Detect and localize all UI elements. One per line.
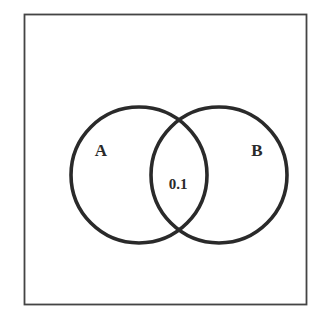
set-a-label: A: [95, 141, 108, 160]
set-a-circle: [71, 107, 207, 243]
set-b-circle: [151, 107, 287, 243]
intersection-value: 0.1: [169, 176, 188, 192]
venn-diagram: A B 0.1: [0, 0, 326, 313]
universe-frame: [25, 15, 307, 305]
set-b-label: B: [251, 141, 262, 160]
